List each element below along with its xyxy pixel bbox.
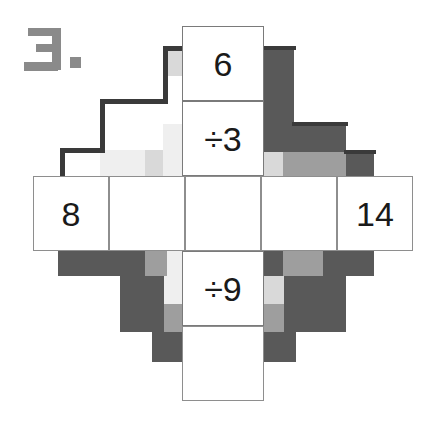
shade-block-ll-3 [167,251,183,276]
cell-left-outer-value: 8 [62,197,81,231]
shade-block-ul-2 [145,150,163,176]
outline-ul-h2 [100,99,168,104]
shade-block-ur-5 [264,152,283,176]
shadow-block-ll-6 [120,304,164,332]
outline-ur-step [292,122,348,126]
cell-lower-operator[interactable]: ÷9 [182,251,264,326]
shade-block-ur-3 [283,152,346,176]
cell-bottom[interactable] [182,326,264,401]
worksheet-page: 3. 6 ÷3 8 [0,0,429,425]
cell-right-inner[interactable] [261,176,337,251]
cell-top[interactable]: 6 [182,26,264,101]
outline-ul-v1 [163,46,168,102]
cell-top-value: 6 [214,47,233,81]
shade-block-lr-4 [264,276,284,304]
shade-block-lr-2 [283,251,323,276]
outline-ul-v3 [60,148,65,178]
shade-block-ll-2 [145,251,167,276]
shadow-block-ur-1 [264,48,294,124]
shade-block-lr-5 [264,304,284,332]
shadow-block-ur-4 [346,152,374,176]
outline-ul-v2 [100,99,105,150]
shade-block-ll-7 [164,304,183,332]
outline-ur-edge [344,150,376,154]
cell-center[interactable] [185,176,261,251]
outline-ur-top [264,46,296,50]
shadow-block-lr-7 [264,332,296,362]
cell-upper-operator[interactable]: ÷3 [182,101,264,176]
problem-number-label: 3. [22,24,94,84]
cell-left-inner[interactable] [109,176,185,251]
cell-right-outer[interactable]: 14 [337,176,413,251]
shadow-block-ll-8 [152,332,183,362]
shade-block-ul-3 [163,124,183,176]
outline-ul-h3 [60,148,105,153]
shade-block-ll-5 [164,276,183,304]
shadow-block-ur-2 [264,124,346,152]
cell-left-outer[interactable]: 8 [33,176,109,251]
cell-right-outer-value: 14 [356,197,394,231]
shadow-block-lr-6 [284,304,346,332]
cell-lower-operator-value: ÷9 [204,272,242,306]
cell-upper-operator-value: ÷3 [204,122,242,156]
